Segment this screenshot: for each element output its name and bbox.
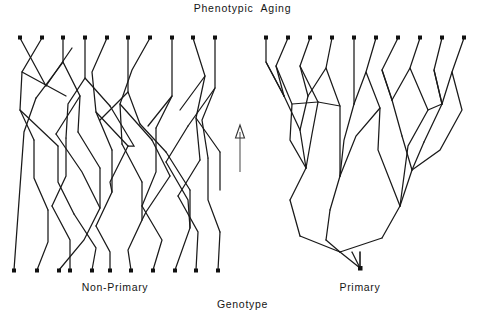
panel-label-primary: Primary bbox=[305, 281, 415, 293]
axis-label-genotype: Genotype bbox=[0, 298, 485, 310]
up-arrow-icon bbox=[236, 125, 245, 172]
lineage-diagram bbox=[0, 0, 485, 321]
primary-top-nodes bbox=[264, 36, 466, 40]
panel-label-non-primary: Non-Primary bbox=[40, 281, 190, 293]
non-primary-network-lines bbox=[14, 38, 220, 270]
primary-root-node bbox=[358, 266, 363, 271]
non-primary-top-nodes bbox=[18, 36, 217, 40]
primary-tree-lines bbox=[266, 38, 464, 268]
non-primary-bottom-nodes bbox=[12, 269, 220, 273]
